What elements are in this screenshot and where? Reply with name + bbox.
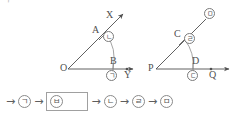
flow-box-blank[interactable]: ㅂ [46,92,88,111]
flow-row: → ㄱ → ㅂ → ㄴ → ㄹ → ㅁ [6,84,173,118]
label-ray-X: X [106,10,113,19]
arrow-icon: → [148,96,157,107]
flow-sequence: → ㄱ → ㅂ → ㄴ → ㄹ → ㅁ [0,84,236,118]
marker-rieul-right-figure: ㄹ [184,33,195,44]
arrow-icon: → [91,96,100,107]
label-point-A: A [92,25,99,34]
flow-node-nieun[interactable]: ㄴ [104,95,117,108]
label-point-B: B [110,56,117,65]
arrow-icon: → [34,96,43,107]
arrow-icon: → [6,96,15,107]
marker-mieum-right-figure: ㅁ [204,8,215,19]
label-ray-Q: Q [209,70,216,79]
flow-node-rieul[interactable]: ㄹ [132,95,145,108]
label-vertex-P: P [148,63,154,72]
label-ray-Y: Y [124,70,131,79]
flow-node-mieum[interactable]: ㅁ [160,95,173,108]
label-point-D: D [192,56,199,65]
marker-nieun-left-figure: ㄴ [103,31,114,42]
flow-node-giyeok[interactable]: ㄱ [18,95,31,108]
flow-node-bieup-filled: ㅂ [50,95,63,108]
left-angle-figure [68,14,133,74]
marker-giyeok-left-figure: ㄱ [106,70,117,81]
label-vertex-O: O [60,63,67,72]
figure-page: ᄀ [0,0,236,118]
label-point-C: C [174,29,181,38]
marker-digeut-right-figure: ㄷ [187,70,198,81]
arrow-icon: → [120,96,129,107]
